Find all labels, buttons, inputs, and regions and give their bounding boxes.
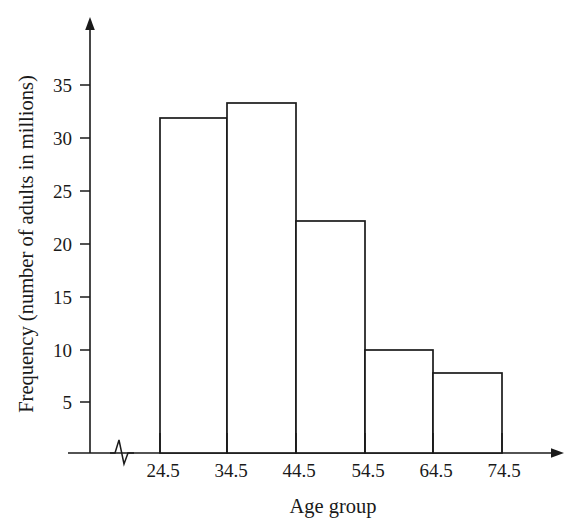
x-tick-label-54-5: 54.5	[351, 460, 384, 481]
bar-0	[160, 118, 227, 453]
y-tick-label-10: 10	[53, 340, 72, 361]
bar-2	[296, 221, 365, 453]
y-axis	[85, 17, 95, 453]
bar-4	[433, 373, 502, 453]
histogram-chart: 35 30 25 20 15 10 5 24.5 34	[0, 0, 580, 529]
y-tick-label-25: 25	[53, 181, 72, 202]
x-tick-label-34-5: 34.5	[214, 460, 247, 481]
y-tick-label-20: 20	[53, 234, 72, 255]
y-axis-tick-labels: 35 30 25 20 15 10 5	[53, 75, 72, 413]
x-tick-label-64-5: 64.5	[419, 460, 452, 481]
y-tick-label-35: 35	[53, 75, 72, 96]
x-axis-title: Age group	[289, 495, 376, 518]
bars-group	[160, 103, 502, 453]
y-axis-ticks	[80, 85, 90, 402]
x-axis-arrow-icon	[551, 448, 564, 458]
y-tick-label-5: 5	[63, 392, 73, 413]
x-tick-label-24-5: 24.5	[146, 460, 179, 481]
bar-1	[227, 103, 296, 453]
x-tick-label-44-5: 44.5	[282, 460, 315, 481]
y-axis-arrow-icon	[85, 17, 95, 30]
y-tick-label-30: 30	[53, 128, 72, 149]
y-tick-label-15: 15	[53, 287, 72, 308]
x-tick-label-74-5: 74.5	[487, 460, 520, 481]
x-axis-tick-labels: 24.5 34.5 44.5 54.5 64.5 74.5	[146, 460, 520, 481]
bar-3	[365, 350, 433, 453]
axis-break-zigzag	[110, 440, 134, 464]
y-axis-title: Frequency (number of adults in millions)	[15, 75, 38, 413]
chart-canvas: 35 30 25 20 15 10 5 24.5 34	[0, 0, 580, 529]
